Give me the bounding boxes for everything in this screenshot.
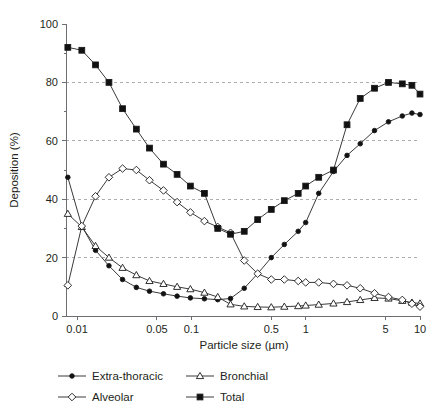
data-point: [400, 114, 405, 119]
legend-item-extra-thoracic[interactable]: Extra-thoracic: [58, 370, 163, 382]
data-point: [64, 210, 71, 216]
data-point: [399, 81, 405, 87]
x-tick-label-0.01: 0.01: [66, 323, 87, 335]
data-point: [188, 296, 193, 301]
data-series: [64, 44, 424, 310]
data-point: [316, 174, 322, 180]
data-point: [133, 126, 139, 132]
data-point: [120, 106, 126, 112]
data-point: [356, 284, 364, 292]
data-point: [201, 217, 209, 225]
data-point: [120, 277, 125, 282]
data-point: [344, 122, 350, 128]
y-tick-label-40: 40: [46, 193, 58, 205]
deposition-chart-figure: 0.010.050.10.51510 020406080100 Particle…: [0, 0, 438, 419]
data-point: [371, 289, 379, 297]
data-point: [295, 190, 301, 196]
axis-ticks: [62, 24, 420, 320]
data-point: [106, 80, 112, 86]
data-point: [174, 171, 180, 177]
data-point: [343, 282, 351, 290]
data-point: [417, 91, 423, 97]
data-point: [315, 279, 323, 287]
axes: [66, 24, 420, 316]
data-point: [202, 190, 208, 196]
data-point: [175, 294, 180, 299]
data-point: [267, 276, 275, 284]
data-point: [408, 300, 416, 308]
y-tick-label-60: 60: [46, 135, 58, 147]
data-point: [202, 296, 207, 301]
data-point: [255, 217, 261, 223]
data-point: [228, 231, 234, 237]
x-tick-label-10: 10: [414, 323, 426, 335]
data-point: [147, 289, 152, 294]
data-point: [227, 301, 234, 307]
x-tick-label-5: 5: [383, 323, 389, 335]
y-axis-title: Deposition (%): [8, 132, 20, 208]
y-tick-label-20: 20: [46, 252, 58, 264]
data-point: [268, 207, 274, 213]
data-point: [64, 282, 72, 290]
data-point: [242, 286, 247, 291]
data-point: [296, 229, 301, 234]
data-point: [146, 277, 153, 283]
data-point: [345, 153, 350, 158]
data-point: [134, 285, 139, 290]
data-point: [269, 255, 274, 260]
legend-marker-filled-circle: [70, 374, 75, 379]
x-axis-tick-labels: 0.010.050.10.51510: [66, 323, 426, 335]
x-axis-title: Particle size (µm): [199, 339, 288, 351]
data-point: [119, 165, 127, 173]
legend-item-bronchial[interactable]: Bronchial: [186, 370, 268, 382]
series-total: [65, 44, 423, 237]
data-point: [386, 80, 392, 86]
data-point: [281, 198, 287, 204]
legend-marker-open-diamond: [68, 393, 76, 401]
data-point: [418, 112, 423, 117]
chart-legend: Extra-thoracicBronchialAlveolarTotal: [58, 370, 268, 403]
data-point: [282, 242, 287, 247]
data-point: [330, 280, 338, 288]
data-point: [65, 44, 71, 50]
y-tick-label-0: 0: [52, 310, 58, 322]
x-tick-label-0.1: 0.1: [184, 323, 199, 335]
data-point: [294, 277, 302, 285]
data-point: [161, 161, 167, 167]
data-point: [303, 183, 309, 189]
legend-label: Bronchial: [220, 370, 268, 382]
data-point: [410, 111, 415, 116]
data-point: [358, 141, 363, 146]
data-point: [316, 191, 321, 196]
legend-marker-filled-square: [197, 394, 203, 400]
x-tick-label-1: 1: [303, 323, 309, 335]
data-point: [372, 85, 378, 91]
data-point: [147, 145, 153, 151]
legend-item-total[interactable]: Total: [186, 391, 244, 403]
data-point: [303, 220, 308, 225]
x-tick-label-0.5: 0.5: [264, 323, 279, 335]
data-point: [372, 128, 377, 133]
data-point: [409, 82, 415, 88]
data-point: [119, 264, 126, 270]
legend-item-alveolar[interactable]: Alveolar: [58, 391, 134, 403]
data-point: [215, 226, 221, 232]
data-point: [281, 276, 289, 284]
legend-label: Extra-thoracic: [92, 370, 163, 382]
data-point: [133, 272, 140, 278]
data-point: [79, 47, 85, 53]
data-point: [302, 279, 310, 287]
data-point: [66, 175, 71, 180]
chart-canvas: 0.010.050.10.51510 020406080100 Particle…: [0, 0, 438, 419]
data-point: [357, 96, 363, 102]
y-axis-tick-labels: 020406080100: [40, 18, 58, 322]
data-point: [241, 228, 247, 234]
data-point: [93, 62, 99, 68]
data-point: [331, 167, 337, 173]
data-point: [105, 174, 113, 182]
y-tick-label-100: 100: [40, 18, 58, 30]
y-tick-label-80: 80: [46, 76, 58, 88]
data-point: [187, 183, 193, 189]
data-point: [107, 263, 112, 268]
series-extra-thoracic: [66, 111, 423, 302]
